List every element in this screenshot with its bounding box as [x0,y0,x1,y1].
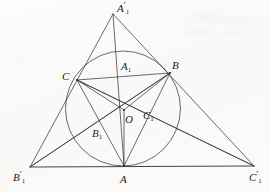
dot-A [123,165,125,167]
label-B1-base: B [92,127,99,139]
label-B1prime: B′1 [13,172,25,183]
segment-outer-right-side [113,14,254,166]
label-B: B [172,60,179,71]
label-B-base: B [172,59,179,71]
segment-outer-left-side [30,14,113,167]
label-A: A [120,174,127,185]
segment-cevian-apex-to-A [113,14,124,166]
segment-inner-side-CA [77,80,124,166]
figure-drawing-canvas [0,0,269,192]
dot-B [169,72,171,74]
dot-C [76,79,78,81]
geometry-figure: A′1 B′1 C′1 A B C O A1 B1 C1 [0,0,269,192]
segment-ray-C-to-Cprime [77,80,254,166]
label-A1prime: A′1 [117,3,129,14]
label-C-base: C [62,70,69,82]
label-B1-sub: 1 [99,133,103,141]
label-O-base: O [125,113,133,125]
line-network [30,14,254,167]
dot-O [123,109,125,111]
label-C1: C1 [143,110,154,121]
label-A1-base: A [121,60,128,72]
label-A-base: A [120,173,127,185]
segment-radius-O-to-B [124,73,170,110]
label-C1-sub: 1 [150,115,154,123]
label-B1prime-sub: 1 [22,177,26,185]
label-O: O [125,114,133,125]
label-A1prime-base: A [117,2,124,14]
label-A1-sub: 1 [128,66,132,74]
label-C1prime-sub: 1 [258,177,262,185]
label-A1prime-sub: 1 [126,8,130,16]
segment-outer-base [30,166,254,167]
segment-radius-O-to-C [77,80,124,110]
label-C: C [62,71,69,82]
label-B1: B1 [92,128,102,139]
label-B1prime-base: B [13,171,20,183]
label-A1: A1 [121,61,131,72]
segment-inner-side-CB [77,73,170,80]
label-C1prime: C′1 [249,172,262,183]
